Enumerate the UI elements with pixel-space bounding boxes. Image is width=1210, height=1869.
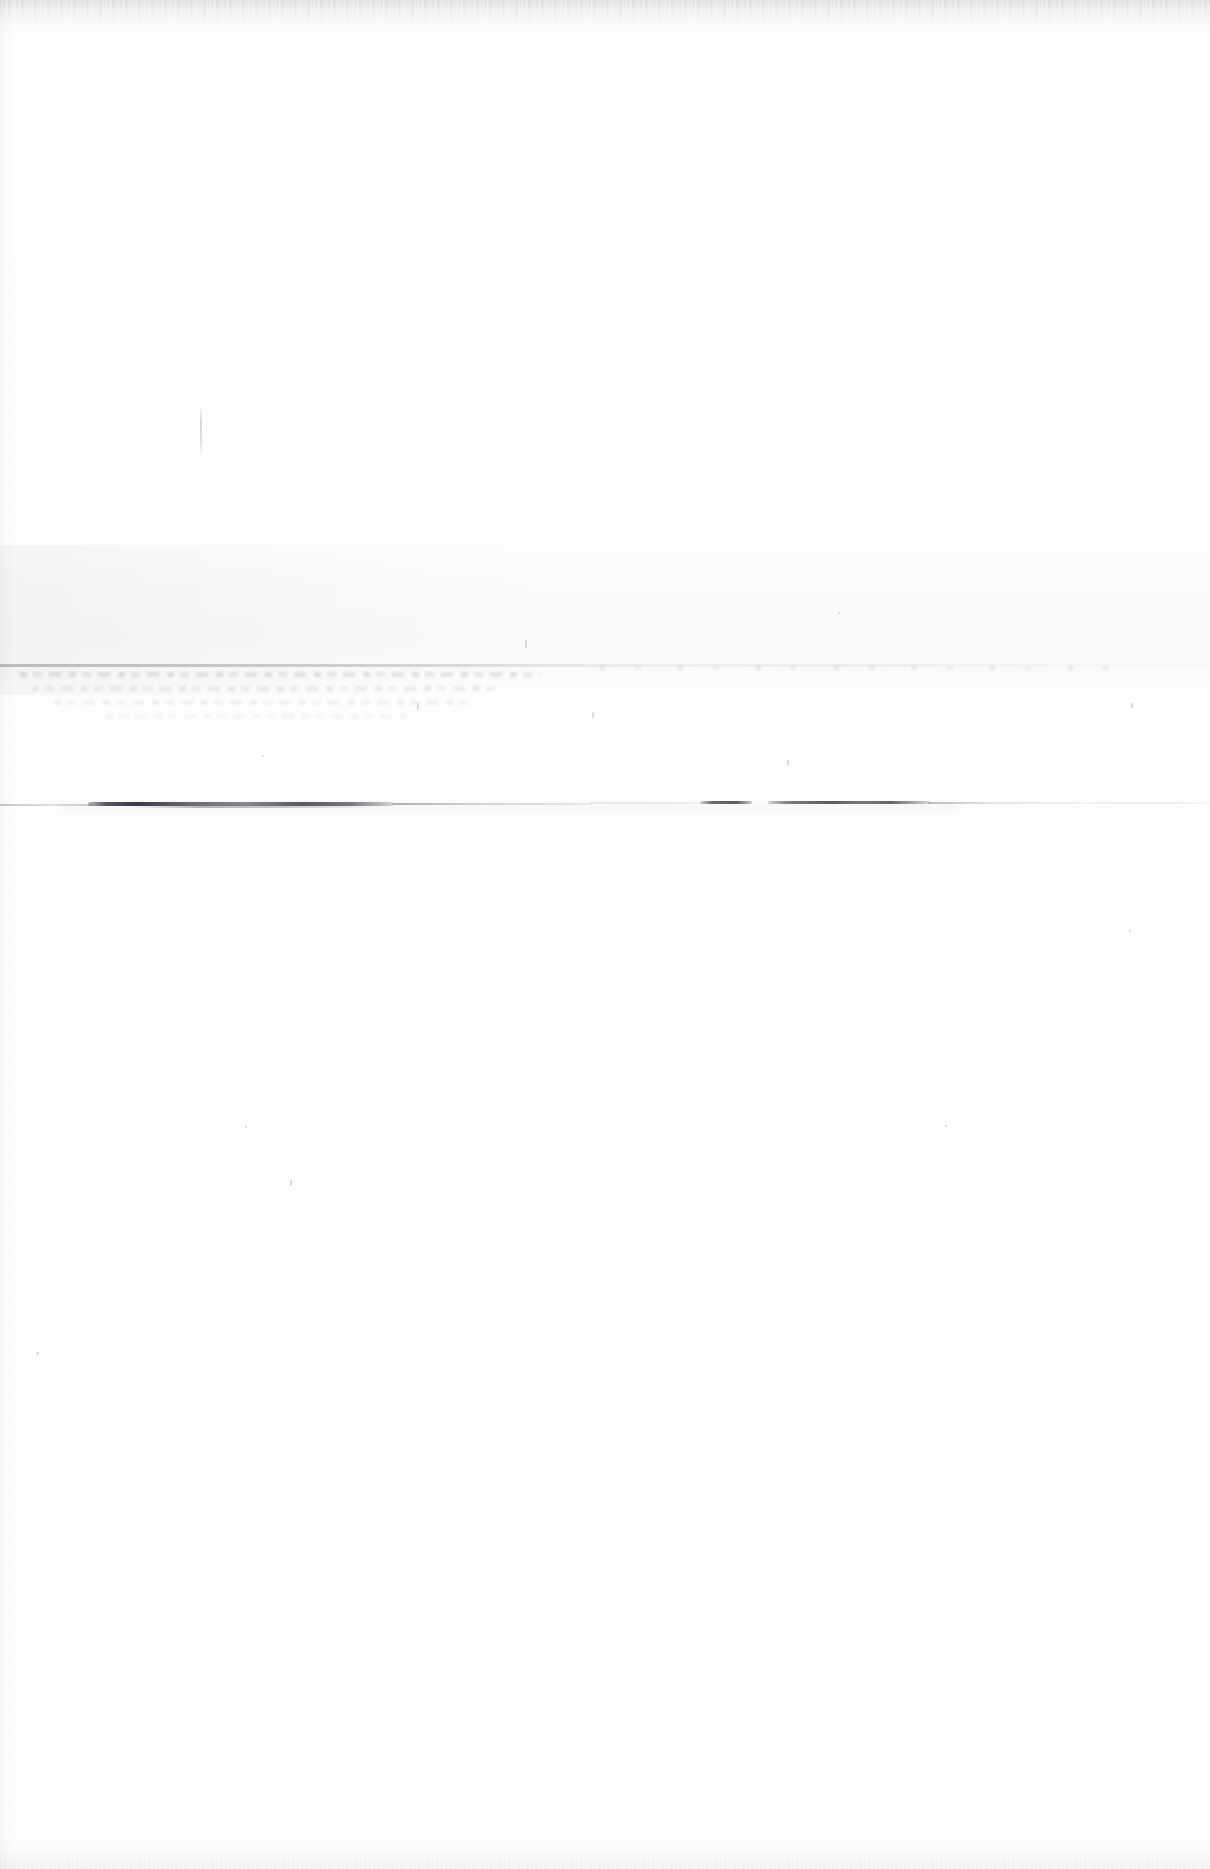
- ink-line-fade-segment: [590, 802, 705, 804]
- ghost-text-line: [32, 686, 502, 691]
- dust-speck: [592, 712, 594, 718]
- dust-speck: [245, 1126, 247, 1128]
- ghost-text-specks: [600, 660, 1120, 700]
- dust-speck: [1131, 703, 1133, 708]
- paper-background: [0, 0, 1210, 1869]
- ink-line-tail: [928, 802, 1210, 804]
- dust-speck: [1129, 930, 1131, 932]
- dust-speck: [290, 1180, 292, 1186]
- ink-line-dash-segment: [700, 801, 752, 804]
- horizontal-ink-line: [0, 788, 1210, 822]
- vertical-scan-streak: [200, 405, 202, 457]
- ghost-text-line: [54, 700, 474, 705]
- scanned-page: [0, 0, 1210, 1869]
- scan-edge-bottom: [0, 1839, 1210, 1869]
- scan-edge-left: [0, 0, 14, 1869]
- ghost-text-line: [106, 714, 406, 719]
- ghost-text-line: [20, 672, 540, 677]
- ghost-text-bleed: [10, 672, 570, 724]
- dust-speck: [945, 1125, 947, 1127]
- ink-line-dash-segment: [768, 801, 930, 804]
- dust-speck: [36, 1352, 39, 1355]
- scan-edge-top: [0, 0, 1210, 40]
- ink-line-echo-stroke: [130, 806, 380, 808]
- dust-speck: [525, 640, 527, 648]
- dust-speck: [787, 760, 789, 766]
- dust-speck: [838, 612, 840, 614]
- dust-speck: [417, 703, 419, 710]
- ink-line-fade-segment: [392, 803, 592, 805]
- dust-speck: [262, 755, 264, 757]
